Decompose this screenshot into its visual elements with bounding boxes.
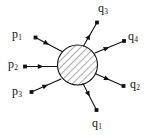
leg-line-q2 [96, 74, 124, 86]
scattering-diagram-figure: p1p2p3q3q4q2q1 [0, 0, 151, 137]
momentum-leg-q1 [83, 84, 98, 112]
label-subscript-q1: 1 [98, 122, 102, 131]
leg-endpoint-dot-p1 [34, 36, 38, 40]
momentum-label-p3: p3 [12, 85, 22, 97]
leg-endpoint-dot-q1 [95, 108, 99, 112]
momentum-leg-p3 [30, 79, 61, 94]
leg-endpoint-dot-p3 [30, 90, 34, 94]
leg-line-q1 [83, 84, 97, 111]
interaction-blob [58, 45, 98, 85]
momentum-leg-p1 [34, 36, 62, 52]
momentum-label-q3: q3 [98, 2, 108, 14]
leg-arrowhead-p2 [38, 64, 44, 69]
leg-endpoint-dot-q4 [122, 39, 126, 43]
label-subscript-p3: 3 [18, 90, 22, 99]
label-subscript-q4: 4 [134, 35, 138, 44]
label-subscript-q2: 2 [136, 83, 140, 92]
leg-endpoint-dot-q2 [122, 84, 126, 88]
momentum-label-q1: q1 [92, 117, 102, 129]
momentum-label-q2: q2 [130, 78, 140, 90]
momentum-label-p1: p1 [12, 28, 22, 40]
momentum-leg-p2 [23, 64, 57, 69]
momentum-leg-q4 [95, 39, 126, 53]
diagram-canvas [0, 0, 151, 137]
momentum-label-q4: q4 [128, 30, 138, 42]
leg-line-q4 [95, 41, 124, 53]
momentum-label-p2: p2 [8, 58, 18, 70]
leg-endpoint-dot-q3 [95, 21, 99, 25]
momentum-leg-q3 [84, 21, 99, 46]
momentum-leg-q2 [96, 74, 125, 88]
label-subscript-p1: 1 [18, 33, 22, 42]
label-subscript-p2: 2 [14, 63, 18, 72]
label-subscript-q3: 3 [104, 7, 108, 16]
leg-endpoint-dot-p2 [23, 65, 27, 69]
